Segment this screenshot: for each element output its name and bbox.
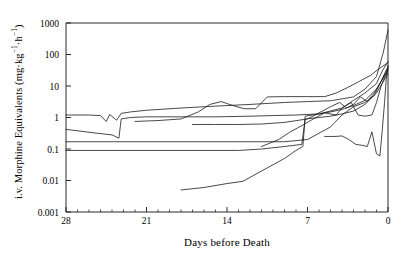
data-series-group — [66, 30, 388, 190]
x-tick-label: 0 — [386, 216, 391, 226]
y-tick-label: 1000 — [40, 19, 59, 29]
x-tick-label: 7 — [305, 216, 310, 226]
y-axis-ticks — [66, 23, 71, 212]
x-tick-label: 14 — [222, 216, 232, 226]
x-axis-ticks — [66, 207, 388, 212]
y-tick-label: 0.01 — [42, 176, 59, 186]
series-line — [193, 67, 389, 124]
series-line — [262, 69, 389, 147]
series-line — [66, 30, 388, 121]
x-tick-label: 28 — [61, 216, 71, 226]
x-axis-tick-labels: 28211470 — [61, 216, 390, 226]
figure-container: i.v. Morphine Equivalents (mg·kg−1·h−1) … — [0, 0, 406, 263]
series-line — [181, 71, 388, 190]
y-tick-label: 100 — [45, 50, 60, 60]
x-tick-label: 21 — [142, 216, 152, 226]
y-tick-label: 10 — [50, 82, 60, 92]
y-tick-label: 0.1 — [47, 145, 59, 155]
series-line — [66, 73, 388, 150]
series-line — [135, 63, 388, 122]
y-tick-label: 0.001 — [38, 208, 60, 218]
line-chart-plot: 10001001010.10.010.001 28211470 — [0, 0, 406, 263]
y-axis-tick-labels: 10001001010.10.010.001 — [38, 19, 60, 218]
series-line — [66, 61, 388, 138]
series-line — [66, 67, 388, 142]
y-tick-label: 1 — [54, 113, 59, 123]
